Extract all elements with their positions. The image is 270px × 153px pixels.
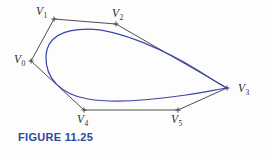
vertex-label-v5: V5 [171, 114, 182, 126]
vertex-marker-v5 [175, 107, 180, 112]
vertex-label-letter: V [36, 5, 43, 17]
vertex-label-letter: V [171, 113, 178, 125]
vertex-label-index: 0 [21, 59, 25, 68]
bezier-curve [46, 29, 227, 101]
vertex-label-letter: V [14, 53, 21, 65]
vertex-label-v3: V3 [238, 83, 249, 95]
vertex-markers [28, 16, 229, 112]
vertex-label-letter: V [77, 113, 84, 125]
vertex-label-index: 1 [43, 11, 47, 20]
vertex-label-index: 5 [178, 119, 182, 128]
vertex-label-v0: V0 [14, 54, 25, 66]
vertex-label-letter: V [112, 7, 119, 19]
control-polygon [31, 19, 227, 110]
figure-container: V0V1V2V3V4V5 FIGURE 11.25 [0, 0, 270, 153]
vertex-marker-v1 [51, 16, 56, 21]
vertex-label-v1: V1 [36, 6, 47, 18]
vertex-label-v4: V4 [77, 114, 88, 126]
vertex-label-v2: V2 [112, 8, 123, 20]
figure-caption: FIGURE 11.25 [18, 131, 93, 143]
vertex-label-index: 4 [84, 119, 88, 128]
vertex-marker-v3 [224, 85, 229, 90]
vertex-label-index: 2 [119, 13, 123, 22]
vertex-marker-v2 [113, 21, 118, 26]
vertex-label-index: 3 [245, 88, 249, 97]
vertex-label-letter: V [238, 82, 245, 94]
